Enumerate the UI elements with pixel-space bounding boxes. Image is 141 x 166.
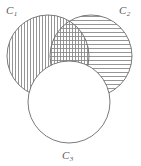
set-label-c3-base: C <box>62 149 70 161</box>
set-label-c2: C2 <box>119 5 130 16</box>
circle-c3 <box>28 61 110 143</box>
set-label-c1-base: C <box>6 4 14 16</box>
set-label-c1-subscript: 1 <box>14 10 18 18</box>
venn-diagram-svg <box>0 0 141 166</box>
set-label-c3-subscript: 3 <box>70 155 74 163</box>
set-label-c2-subscript: 2 <box>127 10 131 18</box>
set-label-c1: C1 <box>6 5 17 16</box>
set-label-c2-base: C <box>119 4 127 16</box>
venn-diagram-figure: C1 C2 C3 <box>0 0 141 166</box>
set-label-c3: C3 <box>62 150 73 161</box>
